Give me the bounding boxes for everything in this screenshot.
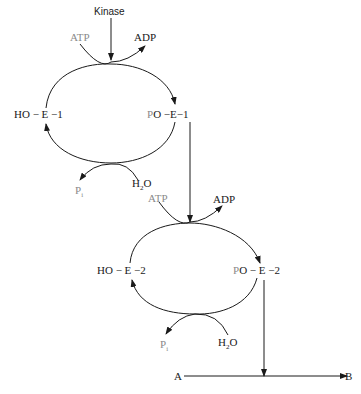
ho-e2-label: HO − E −2 — [97, 264, 146, 276]
product-b-label: B — [345, 370, 352, 382]
h2o-o: O — [143, 177, 151, 189]
cycle2-h2o-label: H2O — [218, 336, 237, 348]
h2o-h: H — [132, 177, 140, 189]
ho-e1-label: HO − E −1 — [14, 108, 63, 120]
cycle2-h2o-pi-arc — [166, 314, 228, 335]
cycle1-atp-label: ATP — [70, 31, 90, 43]
diagram-canvas — [0, 0, 361, 394]
cycle1-dephosphorylation-arc — [46, 122, 175, 163]
cycle2-atp-label: ATP — [148, 192, 168, 204]
cycle1-phosphorylation-arc — [46, 64, 175, 108]
h2o-o: O — [229, 336, 237, 348]
cycle1-atp-adp-arc — [80, 44, 145, 64]
cycle1-h2o-pi-arc — [80, 164, 138, 180]
po-e2-label: PO − E −2 — [233, 264, 280, 276]
substrate-a-label: A — [174, 370, 182, 382]
cycle2-adp-label: ADP — [213, 193, 235, 205]
cycle1-pi-label: Pi — [75, 184, 83, 196]
po-e1-label: PO −E−1 — [147, 108, 188, 120]
h2o-h: H — [218, 336, 226, 348]
cycle1-adp-label: ADP — [134, 31, 156, 43]
cycle2-pi-label: Pi — [160, 338, 168, 350]
kinase-label: Kinase — [94, 6, 125, 18]
po-e1-rest: O −E−1 — [153, 108, 188, 120]
pi-sub: i — [81, 191, 83, 199]
cycle2-phosphorylation-arc — [130, 223, 260, 263]
po-e2-rest: O − E −2 — [239, 264, 280, 276]
cycle2-dephosphorylation-arc — [132, 278, 257, 314]
cycle1-h2o-label: H2O — [132, 177, 151, 189]
pi-sub: i — [166, 345, 168, 353]
